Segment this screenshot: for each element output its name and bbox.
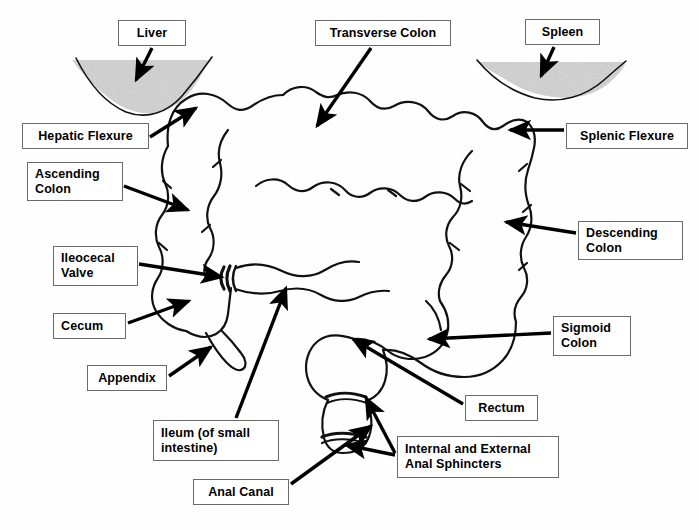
label-text-hepatic-flexure: Hepatic Flexure bbox=[38, 129, 133, 144]
label-text-anal-sphincters: Internal and External Anal Sphincters bbox=[405, 442, 531, 472]
label-text-liver: Liver bbox=[137, 26, 167, 41]
transverse-colon-lower-icon bbox=[256, 179, 472, 203]
label-box-rectum: Rectum bbox=[465, 395, 538, 421]
rectum-left-icon bbox=[306, 335, 354, 400]
rectum-pointer-icon bbox=[353, 339, 463, 404]
descending-colon-pointer-icon bbox=[506, 222, 576, 233]
label-box-anal-canal: Anal Canal bbox=[193, 479, 289, 505]
label-text-spleen: Spleen bbox=[542, 25, 584, 40]
label-box-ileum: Ileum (of small intestine) bbox=[153, 420, 279, 461]
label-text-transverse-colon: Transverse Colon bbox=[330, 26, 437, 41]
label-box-liver: Liver bbox=[118, 20, 186, 46]
label-text-anal-canal: Anal Canal bbox=[208, 485, 274, 500]
label-box-descending-colon: Descending Colon bbox=[578, 221, 683, 260]
ascending-colon-pointer-icon bbox=[124, 186, 188, 210]
sphincter-lower-pointer-icon bbox=[346, 445, 395, 455]
label-box-ileocecal-valve: Ileocecal Valve bbox=[53, 246, 138, 286]
label-box-spleen: Spleen bbox=[525, 19, 600, 45]
label-box-hepatic-flexure: Hepatic Flexure bbox=[22, 123, 149, 149]
label-text-ileum: Ileum (of small intestine) bbox=[161, 426, 250, 456]
ileum-lower-icon bbox=[235, 289, 389, 301]
colon-anatomy-diagram: LiverTransverse ColonSpleenHepatic Flexu… bbox=[0, 0, 699, 530]
descending-colon-inner-icon bbox=[439, 151, 472, 301]
label-box-splenic-flexure: Splenic Flexure bbox=[566, 123, 688, 149]
cecum-icon bbox=[186, 288, 231, 337]
haustra-tick-icon bbox=[519, 164, 527, 171]
ileocecal-valve-icon bbox=[221, 266, 236, 291]
appendix-pointer-icon bbox=[169, 347, 211, 376]
label-text-sigmoid-colon: Sigmoid Colon bbox=[561, 321, 611, 351]
label-text-ascending-colon: Ascending Colon bbox=[35, 167, 100, 197]
label-text-ileocecal-valve: Ileocecal Valve bbox=[61, 251, 115, 281]
hepatic-flexure-icon bbox=[168, 94, 283, 146]
label-text-appendix: Appendix bbox=[98, 371, 156, 386]
label-text-descending-colon: Descending Colon bbox=[586, 226, 658, 256]
label-box-transverse-colon: Transverse Colon bbox=[315, 20, 451, 46]
sigmoid-colon-inner-icon bbox=[426, 301, 441, 330]
descending-colon-outer-icon bbox=[515, 170, 532, 322]
liver-shadow-icon bbox=[72, 60, 208, 113]
ileum-pointer-icon bbox=[236, 288, 286, 418]
ascending-colon-inner-icon bbox=[204, 130, 228, 278]
ileum-upper-icon bbox=[236, 261, 359, 276]
transverse-colon-pointer-icon bbox=[317, 48, 371, 126]
label-text-cecum: Cecum bbox=[61, 319, 103, 334]
ileocecal-valve-pointer-icon bbox=[139, 264, 222, 277]
haustra-tick-icon bbox=[331, 189, 339, 195]
label-box-anal-sphincters: Internal and External Anal Sphincters bbox=[397, 436, 559, 478]
label-box-cecum: Cecum bbox=[53, 313, 126, 339]
haustra-tick-icon bbox=[202, 225, 210, 232]
label-text-rectum: Rectum bbox=[478, 401, 524, 416]
label-text-splenic-flexure: Splenic Flexure bbox=[580, 129, 674, 144]
cecum-pointer-icon bbox=[128, 301, 189, 323]
label-box-sigmoid-colon: Sigmoid Colon bbox=[553, 316, 631, 356]
organ-shadow-group bbox=[72, 57, 626, 115]
haustra-tick-icon bbox=[461, 184, 470, 191]
label-box-ascending-colon: Ascending Colon bbox=[27, 162, 123, 201]
label-box-appendix: Appendix bbox=[87, 365, 167, 391]
